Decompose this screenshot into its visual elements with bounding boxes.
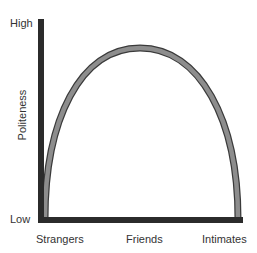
- y-axis-label: Politeness: [16, 90, 28, 141]
- x-tick-intimates: Intimates: [202, 233, 247, 245]
- politeness-curve: [45, 48, 238, 219]
- politeness-curve-diagram: [0, 0, 257, 253]
- x-tick-strangers: Strangers: [36, 233, 84, 245]
- x-axis: [38, 217, 243, 223]
- y-tick-high: High: [10, 17, 33, 29]
- x-tick-friends: Friends: [126, 233, 163, 245]
- y-tick-low: Low: [10, 213, 30, 225]
- y-axis: [38, 19, 44, 223]
